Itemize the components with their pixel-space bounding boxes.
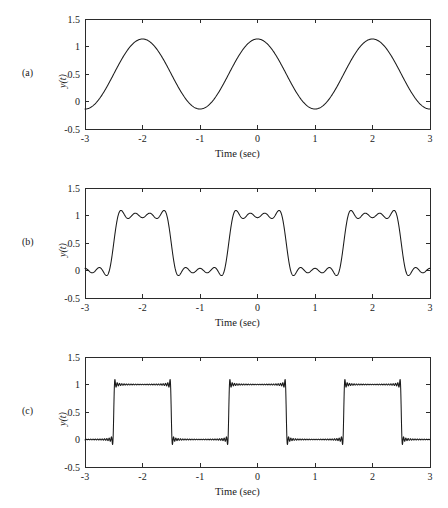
svg-text:3: 3 bbox=[428, 471, 433, 482]
svg-text:1: 1 bbox=[313, 302, 318, 313]
svg-text:0: 0 bbox=[75, 434, 80, 445]
svg-text:3: 3 bbox=[428, 133, 433, 144]
svg-text:2: 2 bbox=[370, 471, 375, 482]
svg-text:-3: -3 bbox=[81, 302, 89, 313]
svg-text:1.5: 1.5 bbox=[68, 183, 81, 194]
svg-text:-0.5: -0.5 bbox=[64, 124, 80, 135]
panel-a: (a) y(t) -3-2-101231.510.50-0.5 Time (se… bbox=[0, 0, 448, 170]
svg-text:-1: -1 bbox=[196, 471, 204, 482]
svg-text:-2: -2 bbox=[138, 133, 146, 144]
svg-text:-0.5: -0.5 bbox=[64, 293, 80, 304]
panel-a-x-axis-label: Time (sec) bbox=[215, 148, 260, 159]
svg-text:-3: -3 bbox=[81, 133, 89, 144]
svg-text:1.5: 1.5 bbox=[68, 14, 81, 25]
svg-text:-1: -1 bbox=[196, 302, 204, 313]
svg-text:-0.5: -0.5 bbox=[64, 462, 80, 473]
svg-text:0: 0 bbox=[75, 96, 80, 107]
svg-text:1: 1 bbox=[313, 133, 318, 144]
svg-text:-1: -1 bbox=[196, 133, 204, 144]
svg-text:-2: -2 bbox=[138, 471, 146, 482]
panel-a-plot: -3-2-101231.510.50-0.5 bbox=[0, 0, 448, 170]
svg-text:1.5: 1.5 bbox=[68, 352, 81, 363]
svg-text:1: 1 bbox=[75, 41, 80, 52]
svg-text:0.5: 0.5 bbox=[68, 238, 81, 249]
svg-text:0.5: 0.5 bbox=[68, 69, 81, 80]
svg-text:2: 2 bbox=[370, 133, 375, 144]
svg-text:2: 2 bbox=[370, 302, 375, 313]
svg-text:-3: -3 bbox=[81, 471, 89, 482]
panel-c-plot: -3-2-101231.510.50-0.5 bbox=[0, 338, 448, 508]
svg-text:0: 0 bbox=[75, 265, 80, 276]
svg-text:0: 0 bbox=[255, 133, 260, 144]
svg-text:0: 0 bbox=[255, 471, 260, 482]
svg-text:1: 1 bbox=[75, 379, 80, 390]
svg-text:0: 0 bbox=[255, 302, 260, 313]
panel-c: (c) y(t) -3-2-101231.510.50-0.5 Time (se… bbox=[0, 338, 448, 508]
svg-text:1: 1 bbox=[75, 210, 80, 221]
panel-b-x-axis-label: Time (sec) bbox=[215, 317, 260, 328]
svg-text:0.5: 0.5 bbox=[68, 407, 81, 418]
panel-b-plot: -3-2-101231.510.50-0.5 bbox=[0, 169, 448, 339]
panel-b: (b) y(t) -3-2-101231.510.50-0.5 Time (se… bbox=[0, 169, 448, 339]
fourier-series-figure: (a) y(t) -3-2-101231.510.50-0.5 Time (se… bbox=[0, 0, 448, 508]
svg-text:1: 1 bbox=[313, 471, 318, 482]
panel-c-x-axis-label: Time (sec) bbox=[215, 486, 260, 497]
svg-text:-2: -2 bbox=[138, 302, 146, 313]
svg-text:3: 3 bbox=[428, 302, 433, 313]
